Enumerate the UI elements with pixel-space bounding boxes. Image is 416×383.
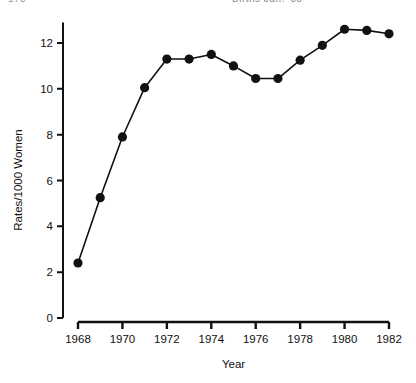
x-tick-label: 1974 <box>198 333 224 345</box>
y-axis: 024681012 <box>40 22 63 324</box>
data-point-marker <box>273 74 282 83</box>
y-tick-label: 2 <box>47 266 53 278</box>
data-point-marker <box>340 25 349 34</box>
data-point-marker <box>162 54 171 63</box>
data-point-marker <box>140 83 149 92</box>
x-tick-label: 1980 <box>332 333 358 345</box>
x-tick-label-group: 19681970197219741976197819801982 <box>65 333 402 345</box>
x-axis-title: Year <box>222 358 245 370</box>
data-series <box>73 25 393 268</box>
data-point-marker <box>362 26 371 35</box>
data-point-marker <box>229 61 238 70</box>
figure-container: 178 Births Jan. '85 024681012 1968197019… <box>0 0 416 383</box>
data-point-marker <box>296 56 305 65</box>
data-point-marker <box>118 132 127 141</box>
x-tick-label: 1976 <box>243 333 269 345</box>
y-axis-title: Rates/1000 Women <box>12 129 24 230</box>
x-axis-line <box>78 322 389 329</box>
data-point-marker <box>384 29 393 38</box>
x-axis: 19681970197219741976197819801982 <box>65 322 402 345</box>
data-point-marker <box>96 193 105 202</box>
y-tick-label: 0 <box>47 312 53 324</box>
data-point-marker <box>207 50 216 59</box>
x-tick-label: 1970 <box>110 333 136 345</box>
data-point-marker <box>251 74 260 83</box>
y-tick-label: 10 <box>40 83 53 95</box>
y-tick-label: 8 <box>47 129 53 141</box>
x-tick-label: 1968 <box>65 333 91 345</box>
data-point-marker <box>73 258 82 267</box>
y-axis-line <box>57 22 63 318</box>
y-tick-label-group: 024681012 <box>40 37 53 324</box>
series-marker-group <box>73 25 393 268</box>
x-tick-label: 1972 <box>154 333 180 345</box>
y-tick-label: 4 <box>47 220 54 232</box>
data-point-marker <box>184 54 193 63</box>
line-chart: 024681012 196819701972197419761978198019… <box>0 0 416 383</box>
y-tick-label: 12 <box>40 37 53 49</box>
x-tick-label: 1978 <box>287 333 313 345</box>
data-point-marker <box>318 41 327 50</box>
y-tick-label: 6 <box>47 175 53 187</box>
x-tick-label: 1982 <box>376 333 402 345</box>
